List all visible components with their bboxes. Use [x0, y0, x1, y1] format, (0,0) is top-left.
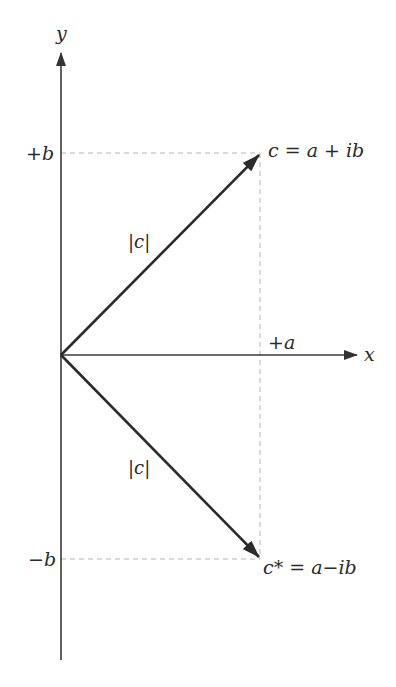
complex-plane-diagram: y x +b −b +a c = a + ib c* = a−ib |c| |c… — [0, 0, 396, 687]
guide-lines — [61, 153, 260, 559]
plus-a-label: +a — [268, 331, 295, 353]
minus-b-label: −b — [28, 548, 56, 570]
vector-c-label: c = a + ib — [268, 139, 364, 161]
x-axis-label: x — [364, 343, 375, 365]
vector-c-conjugate-label: c* = a−ib — [263, 556, 357, 578]
y-axis-label: y — [55, 22, 67, 44]
magnitude-label-lower: |c| — [128, 457, 150, 479]
magnitude-label-upper: |c| — [128, 231, 150, 253]
plus-b-label: +b — [26, 142, 54, 164]
vectors — [61, 155, 259, 557]
vector-c-conjugate — [61, 355, 259, 557]
vector-c — [61, 155, 259, 355]
labels: y x +b −b +a c = a + ib c* = a−ib |c| |c… — [26, 22, 375, 578]
